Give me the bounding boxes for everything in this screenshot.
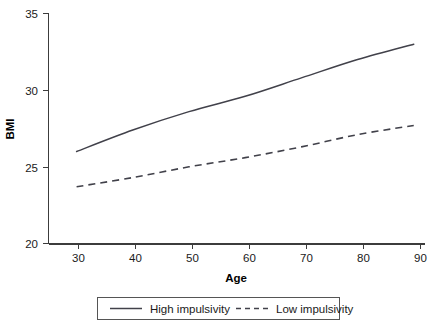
y-axis-title: BMI <box>4 118 16 139</box>
chart-canvas: 35 30 25 20 30 40 50 60 70 80 90 BMI Age <box>0 0 437 329</box>
chart-figure: 35 30 25 20 30 40 50 60 70 80 90 BMI Age <box>0 0 437 329</box>
x-tick-label-60: 60 <box>243 252 256 264</box>
legend-label-low-impulsivity: Low impulsivity <box>276 303 354 315</box>
series-line-high-impulsivity <box>77 44 414 151</box>
y-tick-label-25: 25 <box>25 162 38 174</box>
x-tick-group: 30 40 50 60 70 80 90 <box>72 244 427 264</box>
chart-legend: High impulsivity Low impulsivity <box>98 298 354 320</box>
x-tick-label-30: 30 <box>72 252 85 264</box>
x-tick-label-50: 50 <box>186 252 199 264</box>
x-tick-label-90: 90 <box>414 252 427 264</box>
x-tick-label-70: 70 <box>300 252 313 264</box>
x-tick-label-80: 80 <box>357 252 370 264</box>
y-tick-label-30: 30 <box>25 85 38 97</box>
x-axis-title: Age <box>225 272 247 284</box>
y-tick-group: 35 30 25 20 <box>25 8 48 250</box>
legend-label-high-impulsivity: High impulsivity <box>150 303 230 315</box>
y-tick-label-20: 20 <box>25 238 38 250</box>
series-line-low-impulsivity <box>77 125 414 186</box>
x-tick-label-40: 40 <box>129 252 142 264</box>
y-tick-label-35: 35 <box>25 8 38 20</box>
